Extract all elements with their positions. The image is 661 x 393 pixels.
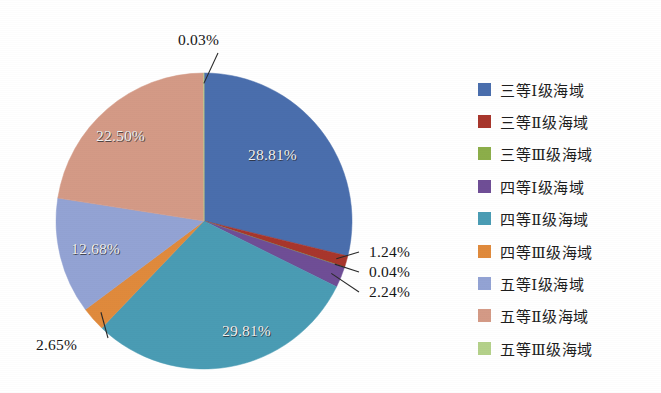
pie-chart-figure: 28.81%1.24%0.04%2.24%29.81%2.65%12.68%22… bbox=[0, 0, 661, 393]
legend-item[interactable]: 四等Ⅰ级海域 bbox=[478, 170, 653, 202]
legend-color-swatch bbox=[478, 342, 491, 355]
pie-slice-value-label: 22.50% bbox=[96, 127, 145, 145]
legend-item-label: 三等Ⅱ级海域 bbox=[500, 111, 589, 132]
legend-item[interactable]: 四等Ⅱ级海域 bbox=[478, 203, 653, 235]
pie-slice-value-label: 0.03% bbox=[178, 31, 219, 49]
legend-item[interactable]: 三等Ⅲ级海域 bbox=[478, 138, 653, 170]
legend-color-swatch bbox=[478, 115, 491, 128]
pie-slice[interactable] bbox=[58, 73, 204, 221]
pie-slice-group bbox=[56, 73, 352, 369]
legend-item[interactable]: 五等Ⅱ级海域 bbox=[478, 300, 653, 332]
legend: 三等Ⅰ级海域三等Ⅱ级海域三等Ⅲ级海域四等Ⅰ级海域四等Ⅱ级海域四等Ⅲ级海域五等Ⅰ级… bbox=[478, 73, 653, 365]
legend-item-label: 四等Ⅲ级海域 bbox=[500, 241, 593, 262]
pie-slice-value-label: 12.68% bbox=[71, 240, 120, 258]
legend-item-label: 三等Ⅰ级海域 bbox=[500, 79, 585, 100]
legend-item-label: 五等Ⅱ级海域 bbox=[500, 305, 589, 326]
legend-item[interactable]: 五等Ⅰ级海域 bbox=[478, 267, 653, 299]
pie-slice-value-label: 1.24% bbox=[369, 243, 410, 261]
legend-item[interactable]: 四等Ⅲ级海域 bbox=[478, 235, 653, 267]
pie-slice-value-label: 0.04% bbox=[369, 263, 410, 281]
pie-slice-value-label: 28.81% bbox=[248, 146, 297, 164]
legend-item[interactable]: 五等Ⅲ级海域 bbox=[478, 332, 653, 364]
pie-slice-value-label: 2.65% bbox=[36, 336, 77, 354]
pie-slice-value-label: 2.24% bbox=[369, 283, 410, 301]
legend-item-label: 三等Ⅲ级海域 bbox=[500, 143, 593, 164]
legend-item[interactable]: 三等Ⅱ级海域 bbox=[478, 105, 653, 137]
legend-item[interactable]: 三等Ⅰ级海域 bbox=[478, 73, 653, 105]
legend-color-swatch bbox=[478, 180, 491, 193]
legend-color-swatch bbox=[478, 309, 491, 322]
legend-item-label: 四等Ⅰ级海域 bbox=[500, 176, 585, 197]
legend-item-label: 五等Ⅲ级海域 bbox=[500, 338, 593, 359]
legend-item-label: 五等Ⅰ级海域 bbox=[500, 273, 585, 294]
legend-item-label: 四等Ⅱ级海域 bbox=[500, 208, 589, 229]
legend-color-swatch bbox=[478, 245, 491, 258]
pie-plot-area: 28.81%1.24%0.04%2.24%29.81%2.65%12.68%22… bbox=[0, 0, 450, 393]
legend-color-swatch bbox=[478, 147, 491, 160]
pie-slice-value-label: 29.81% bbox=[222, 322, 271, 340]
legend-color-swatch bbox=[478, 83, 491, 96]
legend-color-swatch bbox=[478, 277, 491, 290]
legend-color-swatch bbox=[478, 212, 491, 225]
